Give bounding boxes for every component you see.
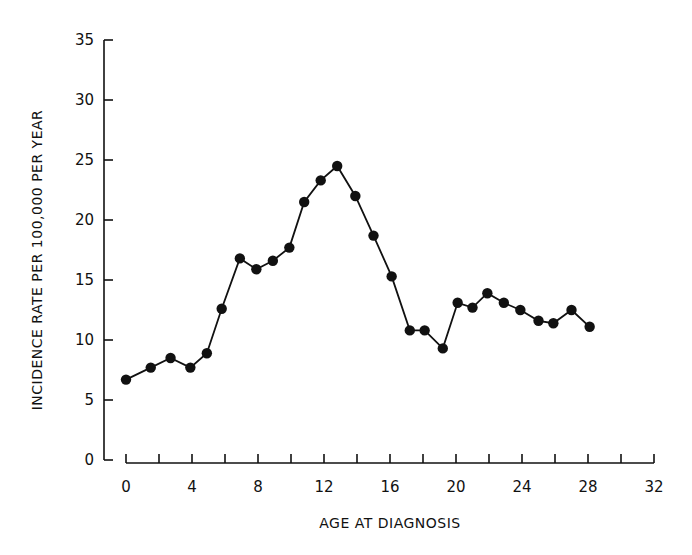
x-tick-label: 28 <box>578 478 597 496</box>
y-axis-title: INCIDENCE RATE PER 100,000 PER YEAR <box>29 110 45 411</box>
data-point <box>146 362 156 372</box>
y-tick-label: 15 <box>75 271 94 289</box>
data-series <box>121 161 595 385</box>
y-tick-label: 10 <box>75 331 94 349</box>
data-point <box>251 264 261 274</box>
data-point <box>438 343 448 353</box>
y-tick-label: 0 <box>84 451 94 469</box>
data-point <box>515 305 525 315</box>
data-point <box>332 161 342 171</box>
data-point <box>368 230 378 240</box>
data-point <box>284 242 294 252</box>
data-point <box>548 318 558 328</box>
y-axis: 05101520253035 <box>75 31 113 469</box>
data-point <box>202 348 212 358</box>
data-point <box>316 175 326 185</box>
data-point <box>268 256 278 266</box>
line-chart: 05101520253035 048121620242832 AGE AT DI… <box>0 0 692 555</box>
data-point <box>217 304 227 314</box>
data-point <box>452 298 462 308</box>
y-tick-label: 30 <box>75 91 94 109</box>
data-point <box>165 353 175 363</box>
x-tick-label: 12 <box>314 478 333 496</box>
x-tick-label: 24 <box>512 478 531 496</box>
y-tick-label: 35 <box>75 31 94 49</box>
x-tick-label: 20 <box>446 478 465 496</box>
x-axis-title: AGE AT DIAGNOSIS <box>319 515 460 531</box>
data-point <box>299 197 309 207</box>
data-point <box>566 305 576 315</box>
y-tick-label: 20 <box>75 211 94 229</box>
data-point <box>467 302 477 312</box>
data-point <box>350 191 360 201</box>
data-point <box>235 253 245 263</box>
x-axis: 048121620242832 <box>121 454 663 496</box>
data-point <box>584 322 594 332</box>
x-tick-label: 4 <box>187 478 197 496</box>
data-point <box>533 316 543 326</box>
x-tick-label: 32 <box>644 478 663 496</box>
data-point <box>386 271 396 281</box>
data-point <box>482 288 492 298</box>
data-point <box>419 325 429 335</box>
y-tick-label: 25 <box>75 151 94 169</box>
data-point <box>499 298 509 308</box>
data-point <box>185 362 195 372</box>
y-tick-label: 5 <box>84 391 94 409</box>
x-tick-label: 16 <box>380 478 399 496</box>
data-point <box>405 325 415 335</box>
x-tick-label: 0 <box>121 478 131 496</box>
x-tick-label: 8 <box>253 478 263 496</box>
data-point <box>121 374 131 384</box>
